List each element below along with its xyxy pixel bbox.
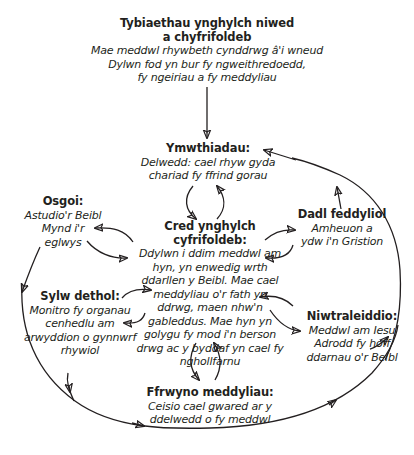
node-intrusions: Ymwthiadau: Delwedd: cael rhyw gyda char… [130, 142, 286, 183]
node-body-line: eglwys [22, 236, 104, 250]
node-body-line: rhywiol [20, 344, 140, 358]
node-title: Niwtraleiddio: [298, 310, 406, 324]
node-title: Sylw dethol: [20, 290, 140, 304]
node-thought-suppression: Ffrwyno meddyliau: Ceisio cael gwared ar… [140, 386, 280, 427]
node-title: Cred ynghylch cyfrifoldeb: [136, 220, 284, 247]
node-title: Tybiaethau ynghylch niwed [80, 17, 334, 31]
node-body-line: Ceisio cael gwared ar y [140, 400, 280, 414]
node-body-line: hyn, yn enwedig wrth [136, 261, 284, 275]
node-body-line: Ddylwn i ddim meddwl am [136, 247, 284, 261]
arrow-responsibility-to-intrusions [217, 186, 224, 219]
node-avoidance: Osgoi: Astudio'r Beibl Mynd i'r eglwys [22, 195, 104, 249]
node-harm-responsibility-beliefs: Tybiaethau ynghylch niwed a chyfrifoldeb… [80, 17, 334, 85]
node-body-line: golygu fy mod i'n berson [136, 328, 284, 342]
node-body-line: meddyliau o'r fath yn [136, 288, 284, 302]
node-body-line: Dylwn fod yn bur fy ngweithredoedd, [80, 58, 334, 72]
diagram-canvas: Tybiaethau ynghylch niwed a chyfrifoldeb… [0, 0, 414, 455]
node-body-line: drwg ac y byddaf yn cael fy [136, 342, 284, 356]
node-body-line: Mae meddwl rhywbeth cynddrwg â'i wneud [80, 44, 334, 58]
node-body-line: fy ngeiriau a fy meddyliau [80, 71, 334, 85]
node-body-line: Adrodd fy hoff [298, 337, 406, 351]
node-title: Dadl feddyliol [292, 208, 392, 222]
arrow-selective-to-loop-head [69, 386, 70, 392]
node-body-line: cenhedlu am [20, 317, 140, 331]
node-body-line: Amheuon a [292, 222, 392, 236]
node-title: Ffrwyno meddyliau: [140, 386, 280, 400]
arrow-avoidance-to-loop [22, 247, 40, 292]
node-body-line: Delwedd: cael rhyw gyda [130, 156, 286, 170]
node-body-line: chariad fy ffrind gorau [130, 169, 286, 183]
node-body-line: ddelwedd o fy meddwl [140, 413, 280, 427]
node-body-line: ydw i'n Gristion [292, 235, 392, 249]
node-responsibility-belief: Cred ynghylch cyfrifoldeb: Ddylwn i ddim… [136, 220, 284, 369]
node-selective-attention: Sylw dethol: Monitro fy organau cenhedlu… [20, 290, 140, 358]
node-title: Osgoi: [22, 195, 104, 209]
arrow-argument-to-loop [337, 187, 341, 209]
node-body-line: Mynd i'r [22, 222, 104, 236]
node-body-line: Meddwl am Iesu [298, 324, 406, 338]
node-body-line: ddarnau o'r Beibl [298, 351, 406, 365]
node-body-line: ddarllen y Beibl. Mae cael [136, 274, 284, 288]
node-body-line: Monitro fy organau [20, 304, 140, 318]
node-body-line: gableddus. Mae hyn yn [136, 315, 284, 329]
node-mental-argument: Dadl feddyliol Amheuon a ydw i'n Gristio… [292, 208, 392, 249]
arrow-selective-to-loop [67, 373, 74, 401]
arrow-intrusions-to-responsibility [187, 186, 196, 219]
node-body-line: nghollfarnu [136, 355, 284, 369]
node-title-line-2: a chyfrifoldeb [80, 31, 334, 45]
node-neutralising: Niwtraleiddio: Meddwl am Iesu Adrodd fy … [298, 310, 406, 364]
node-body-line: arwyddion o gynnwrf [20, 331, 140, 345]
node-title: Ymwthiadau: [130, 142, 286, 156]
node-body-line: ddrwg, maen nhw'n [136, 301, 284, 315]
node-body-line: Astudio'r Beibl [22, 209, 104, 223]
